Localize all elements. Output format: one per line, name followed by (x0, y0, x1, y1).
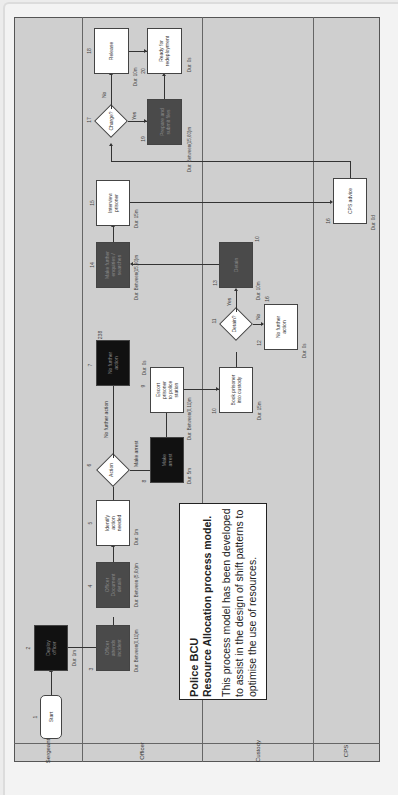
step-number: 17 (86, 117, 92, 123)
node-escort-prisoner[interactable]: Escort prisoner to police station (150, 367, 184, 413)
connector (164, 75, 165, 99)
connector (111, 74, 112, 109)
node-no-further-action[interactable]: No further action (96, 340, 130, 386)
connector (236, 352, 237, 367)
count-badge: 10 (254, 236, 260, 242)
edge-label: Yes (131, 112, 137, 120)
connector (236, 290, 237, 312)
duration-label: Dur: 15m (257, 401, 262, 420)
connector (113, 546, 114, 562)
duration-label: Dur: 0s (302, 343, 307, 358)
edge-label: No (255, 314, 261, 320)
info-subtitle: Resource Allocation process model. (201, 507, 214, 697)
step-number: 1 (32, 716, 38, 719)
connector (111, 145, 112, 162)
step-number: 11 (211, 318, 217, 323)
duration-label: Dur: 0s (187, 57, 192, 72)
step-number: 3 (88, 668, 94, 671)
step-number: 16 (325, 218, 331, 224)
connector (166, 412, 167, 437)
step-number: 9 (140, 385, 146, 388)
connector (130, 470, 150, 471)
connector (350, 161, 351, 178)
step-number: 19 (140, 136, 146, 142)
duration-label: Dur: 10m (256, 281, 261, 300)
duration-label: Dur: 15m (134, 209, 139, 228)
duration-label: Dur: 0d (371, 215, 376, 230)
node-interview-prisoner[interactable]: Interview prisoner (96, 180, 130, 226)
node-cps-advice[interactable]: CPS advice (333, 178, 367, 224)
lane-divider (313, 17, 314, 762)
node-prepare-files[interactable]: Prepare and submit files (147, 99, 182, 145)
step-number: 16 (264, 296, 270, 302)
step-number: 12 (256, 340, 262, 346)
connector (68, 647, 96, 648)
duration-label: Dur: 1m (72, 650, 77, 666)
node-identify-action[interactable]: Identify action needed (96, 500, 130, 546)
edge-label: Yes (226, 298, 232, 306)
duration-label: Dur: 1m (134, 529, 139, 545)
step-number: 8 (141, 480, 147, 483)
lane-label-officer: Officer (139, 731, 145, 771)
step-number: 2 (25, 647, 31, 650)
edge-label: No (101, 92, 107, 98)
decision-label: Detain? (231, 315, 237, 332)
duration-label: Dur: 0s (142, 360, 147, 375)
duration-label: Dur: Between(15,60)m (187, 127, 192, 172)
node-start[interactable]: Start (40, 695, 62, 739)
count-badge: 238 (97, 331, 103, 339)
step-number: 5 (87, 522, 93, 525)
info-box: Police BCU Resource Allocation process m… (179, 503, 267, 700)
node-release[interactable]: Release (94, 28, 129, 74)
step-number: 13 (212, 280, 218, 286)
step-number: 18 (86, 48, 92, 54)
node-document-details[interactable]: Officer Document details (96, 562, 130, 608)
lane-divider (82, 17, 83, 762)
connector (113, 226, 114, 242)
connector (133, 264, 219, 265)
lane-label-cps: CPS (343, 731, 349, 771)
step-number: 7 (87, 364, 93, 367)
connector (51, 672, 52, 695)
step-number: 6 (86, 464, 92, 467)
step-number: 10 (211, 408, 217, 414)
info-title: Police BCU (188, 507, 201, 697)
lane-label-custody: Custody (255, 731, 261, 771)
info-body: This process model has been developed to… (220, 507, 259, 697)
arrow-icon (109, 143, 113, 146)
duration-label: Dur: Between(0,11)m (187, 398, 192, 440)
connector (130, 202, 330, 203)
node-detain[interactable]: Detain (219, 242, 253, 288)
node-ready-redeployment[interactable]: Ready for redeployment (147, 28, 182, 74)
node-deploy-officer[interactable]: Deploy officer (34, 625, 68, 671)
node-officer-attends[interactable]: Officer attends incident (96, 625, 130, 671)
node-no-further-action-custody[interactable]: No further action (264, 304, 298, 350)
connector (111, 161, 351, 162)
step-number: 20 (140, 68, 146, 74)
node-make-arrest[interactable]: Make arrest (150, 437, 184, 483)
step-number: 15 (89, 200, 95, 206)
arrow-icon (234, 288, 238, 291)
connector (184, 389, 219, 390)
node-further-enquiries[interactable]: Make further enquiries / searches (96, 242, 130, 288)
lane-header-divider (14, 743, 380, 744)
step-number: 4 (87, 585, 93, 588)
edge-label: No further action (103, 401, 109, 438)
duration-label: Dur: 5m (187, 468, 192, 484)
node-book-prisoner[interactable]: Book prisoner into custody (219, 367, 253, 413)
duration-label: Dur: 10m (133, 67, 138, 86)
duration-label: Dur: Between (5,6x)m (134, 563, 139, 607)
edge-label: Make arrest (133, 441, 139, 467)
arrow-icon (130, 262, 133, 266)
decision-label: Charge? (108, 111, 114, 130)
decision-label: Action (108, 463, 114, 477)
connector (113, 385, 114, 458)
duration-label: Dur: Between(15,30)m (134, 255, 139, 300)
duration-label: Dur: Between(0,11)m (134, 630, 139, 672)
step-number: 14 (89, 262, 95, 268)
